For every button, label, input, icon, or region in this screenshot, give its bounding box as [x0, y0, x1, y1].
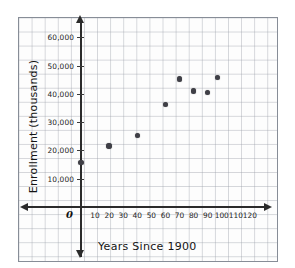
y-tick-mark: [77, 66, 84, 67]
y-tick-label: 20,000: [48, 146, 74, 155]
y-tick-mark: [77, 122, 84, 123]
y-axis-down-arrow-icon: [76, 250, 84, 258]
y-tick-label: 40,000: [48, 89, 74, 98]
x-tick-label: 10: [90, 211, 99, 220]
scatter-point: [135, 133, 140, 138]
scatter-point: [177, 76, 182, 81]
x-tick-label: 80: [189, 211, 198, 220]
y-axis-up-arrow-icon: [76, 15, 84, 23]
scatter-point: [106, 143, 111, 148]
x-tick-label: 30: [119, 211, 128, 220]
scatter-point: [78, 160, 83, 165]
y-axis-title: Enrollment (thousands): [27, 47, 40, 207]
x-tick-label: 120: [243, 211, 257, 220]
x-tick-label: 110: [229, 211, 243, 220]
scatter-plot-screenshot: 10,00020,00030,00040,00050,00060,000 102…: [0, 0, 295, 268]
x-tick-label: 50: [147, 211, 156, 220]
y-axis-line: [80, 21, 82, 257]
scatter-point: [191, 88, 196, 93]
x-tick-label: 40: [133, 211, 142, 220]
scatter-point: [163, 102, 168, 107]
y-tick-label: 50,000: [48, 61, 74, 70]
x-tick-label: 70: [175, 211, 184, 220]
y-tick-mark: [77, 94, 84, 95]
x-tick-label: 20: [104, 211, 113, 220]
y-tick-label: 10,000: [48, 174, 74, 183]
x-tick-label: 90: [203, 211, 212, 220]
x-tick-label: 100: [215, 211, 229, 220]
y-tick-label: 30,000: [48, 118, 74, 127]
x-axis-title: Years Since 1900: [98, 240, 197, 253]
y-tick-label: 60,000: [48, 33, 74, 42]
y-tick-mark: [77, 37, 84, 38]
x-tick-label: 60: [161, 211, 170, 220]
origin-label: 0: [66, 209, 73, 220]
x-axis-right-arrow-icon: [264, 203, 272, 211]
y-tick-mark: [77, 179, 84, 180]
y-tick-mark: [77, 150, 84, 151]
